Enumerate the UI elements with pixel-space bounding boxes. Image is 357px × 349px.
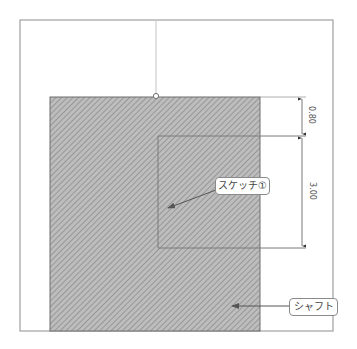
shaft-section-hatched [50, 97, 260, 331]
origin-point-icon [153, 93, 158, 98]
dimension-label-0-80: 0.80 [306, 103, 316, 127]
cad-sketch-canvas [0, 0, 357, 349]
dimension-label-3-00: 3.00 [307, 179, 317, 203]
callout-shaft: シャフト [289, 298, 338, 316]
callout-sketch-1: スケッチ① [215, 177, 270, 195]
